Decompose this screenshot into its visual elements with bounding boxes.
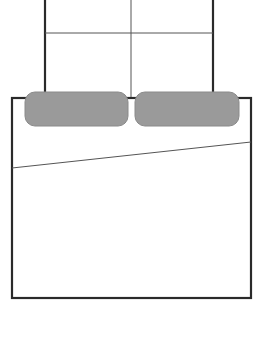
pillow-left: [25, 92, 128, 126]
blanket-fold-line: [12, 142, 251, 168]
bed-frame: [12, 98, 251, 298]
headboard: [45, 0, 213, 98]
pillow-right: [135, 92, 239, 126]
bed-diagram: [0, 0, 259, 352]
